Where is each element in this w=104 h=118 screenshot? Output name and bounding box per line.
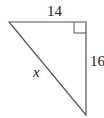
right-side-label: 16 [90,53,104,69]
right-angle-marker [74,22,86,33]
top-side-label: 14 [47,3,63,19]
hypotenuse-label: x [32,64,40,80]
triangle-diagram: 14 16 x [0,0,104,118]
right-triangle [9,22,86,115]
